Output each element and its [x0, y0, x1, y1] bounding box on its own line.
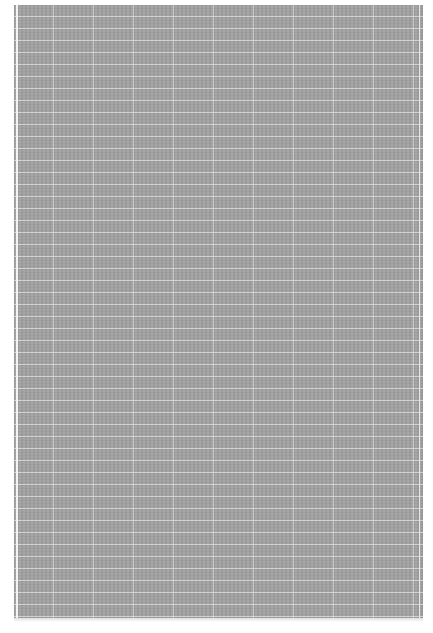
- right-edge-line: [419, 5, 420, 618]
- left-edge-line: [16, 5, 18, 618]
- bottom-edge-shadow: [14, 618, 423, 622]
- textured-grid-panel: [14, 5, 423, 618]
- page-canvas: [0, 0, 433, 633]
